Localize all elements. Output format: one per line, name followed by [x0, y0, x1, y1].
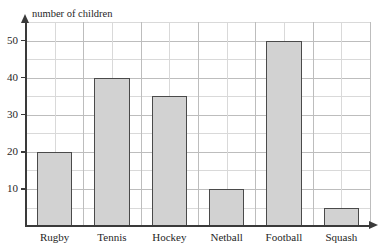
y-axis-tick-label: 20: [0, 146, 18, 157]
y-axis-tick: [21, 40, 26, 41]
plot-area: [26, 22, 370, 226]
x-axis-label-hockey: Hockey: [141, 231, 198, 244]
arrow-right-icon: [369, 221, 378, 229]
y-axis-title: number of children: [32, 8, 112, 20]
bar-squash: [324, 208, 359, 227]
gridline-vertical: [370, 22, 371, 226]
arrow-up-icon: [21, 14, 29, 23]
y-axis-tick-label: 10: [0, 183, 18, 194]
x-axis-line: [25, 225, 370, 227]
x-axis-label-squash: Squash: [313, 231, 370, 244]
x-axis-label-tennis: Tennis: [83, 231, 140, 244]
x-axis-label-rugby: Rugby: [26, 231, 83, 244]
y-axis-tick: [21, 114, 26, 115]
bar-netball: [209, 189, 244, 226]
y-axis-tick-label: 30: [0, 109, 18, 120]
bar-hockey: [152, 96, 187, 226]
bar-rugby: [37, 152, 72, 226]
y-axis-tick-label: 40: [0, 72, 18, 83]
bar-tennis: [94, 78, 129, 226]
x-axis-label-netball: Netball: [198, 231, 255, 244]
y-axis-tick: [21, 151, 26, 152]
x-axis-label-football: Football: [255, 231, 312, 244]
bar-football: [266, 41, 301, 227]
bars-layer: [26, 22, 370, 226]
y-axis-tick-label: 50: [0, 35, 18, 46]
y-axis-tick: [21, 188, 26, 189]
y-axis-line: [25, 21, 27, 227]
bar-chart: number of children 1020304050 RugbyTenni…: [0, 0, 383, 252]
y-axis-tick: [21, 77, 26, 78]
